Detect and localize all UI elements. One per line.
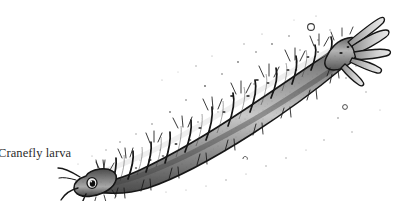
figure-background bbox=[0, 0, 393, 201]
illustration-page: Cranefly larva bbox=[0, 0, 393, 201]
cranefly-larva-illustration bbox=[0, 0, 393, 201]
figure-caption: Cranefly larva bbox=[0, 146, 71, 160]
